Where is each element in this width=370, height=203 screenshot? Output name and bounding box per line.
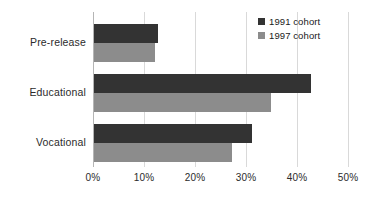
x-axis-tick-label: 10% (124, 172, 164, 183)
legend-swatch-icon-1991 (258, 18, 265, 25)
bar (94, 124, 252, 143)
bar (94, 43, 155, 62)
bar-group (94, 74, 348, 112)
bar (94, 24, 158, 43)
x-axis-tick-label: 40% (277, 172, 317, 183)
legend-swatch-icon-1997 (258, 32, 265, 39)
bar (94, 74, 311, 93)
bar-group (94, 124, 348, 162)
bar (94, 143, 232, 162)
category-label-vocational: Vocational (0, 136, 86, 148)
legend: 1991 cohort 1997 cohort (258, 16, 320, 41)
legend-label-1991: 1991 cohort (269, 16, 320, 27)
category-label-educational: Educational (0, 86, 86, 98)
x-axis-tick-label: 0% (73, 172, 113, 183)
legend-item-1991: 1991 cohort (258, 16, 320, 27)
category-label-pre-release: Pre-release (0, 36, 86, 48)
gridline (348, 12, 349, 167)
x-axis-tick-label: 50% (328, 172, 368, 183)
legend-item-1997: 1997 cohort (258, 30, 320, 41)
x-axis-tick-label: 20% (175, 172, 215, 183)
bar-chart: Pre-release Educational Vocational 0%10%… (0, 0, 370, 203)
legend-label-1997: 1997 cohort (269, 30, 320, 41)
bar (94, 93, 271, 112)
x-axis-tick-label: 30% (226, 172, 266, 183)
